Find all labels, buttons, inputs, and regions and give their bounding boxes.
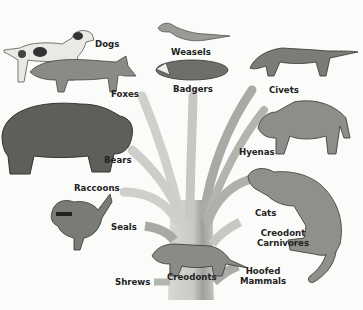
weasel-illustration bbox=[154, 18, 234, 48]
label-hoofed-mammals: Hoofed Mammals bbox=[238, 266, 288, 286]
label-badgers: Badgers bbox=[173, 84, 213, 94]
label-seals: Seals bbox=[111, 222, 137, 232]
label-creodonts: Creodonts bbox=[167, 272, 217, 282]
label-creodont-carnivores-line2: Carnivores bbox=[253, 238, 313, 248]
label-weasels: Weasels bbox=[171, 47, 211, 57]
label-bears: Bears bbox=[104, 155, 132, 165]
badger-illustration bbox=[152, 55, 232, 85]
label-dogs: Dogs bbox=[95, 39, 119, 49]
label-shrews: Shrews bbox=[115, 277, 150, 287]
label-civets: Civets bbox=[269, 85, 299, 95]
label-hoofed-mammals-line1: Hoofed bbox=[238, 266, 288, 276]
label-foxes: Foxes bbox=[111, 89, 139, 99]
label-creodont-carnivores: Creodont Carnivores bbox=[253, 228, 313, 248]
bear-illustration bbox=[0, 96, 136, 178]
raccoon-illustration bbox=[48, 192, 114, 254]
label-hoofed-mammals-line2: Mammals bbox=[238, 276, 288, 286]
label-hyenas: Hyenas bbox=[239, 147, 275, 157]
label-creodont-carnivores-line1: Creodont bbox=[253, 228, 313, 238]
label-cats: Cats bbox=[255, 208, 276, 218]
civet-illustration bbox=[246, 40, 361, 85]
label-raccoons: Raccoons bbox=[74, 183, 120, 193]
evolution-diagram: Dogs Foxes Weasels Badgers Civets Bears … bbox=[0, 0, 363, 310]
